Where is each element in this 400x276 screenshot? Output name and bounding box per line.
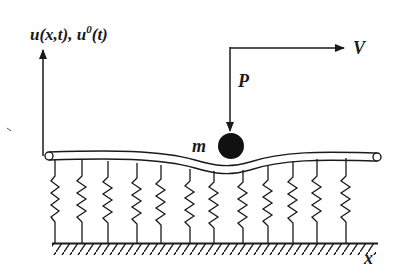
spring <box>132 163 141 243</box>
force-label: P <box>237 71 250 91</box>
spring <box>77 160 86 243</box>
mass-icon <box>218 133 244 159</box>
ground <box>52 244 378 256</box>
velocity-label: V <box>353 38 367 58</box>
spring <box>103 161 112 243</box>
spring <box>156 165 165 243</box>
beam-right-end-icon <box>373 153 381 161</box>
spring <box>312 159 321 243</box>
diagram-canvas: u(x,t), u0(t) V P m x <box>0 0 400 276</box>
beam-bottom-edge <box>49 159 377 174</box>
beam-top-edge <box>49 151 377 166</box>
spring-foundation <box>51 158 350 243</box>
beam-on-foundation-diagram: u(x,t), u0(t) V P m x <box>0 0 400 276</box>
spring <box>51 160 59 243</box>
spring <box>238 170 247 243</box>
spring <box>341 158 350 243</box>
beam-left-end-icon <box>45 152 53 160</box>
spring <box>263 166 272 243</box>
mass-label: m <box>192 136 206 156</box>
beam <box>45 151 381 174</box>
spring <box>209 171 218 243</box>
spring <box>288 161 297 243</box>
spring <box>185 169 194 243</box>
position-axis-label: x <box>363 248 373 268</box>
displacement-axis-label: u(x,t), u0(t) <box>30 23 108 44</box>
stray-mark <box>7 128 11 131</box>
